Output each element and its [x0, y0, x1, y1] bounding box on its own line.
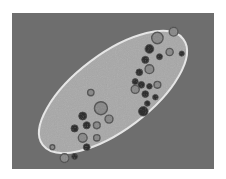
food-vacuole	[94, 102, 107, 115]
food-vacuole	[88, 89, 94, 95]
food-vacuole	[50, 145, 55, 150]
food-vacuole	[93, 122, 100, 129]
granule	[145, 101, 151, 107]
food-vacuole	[152, 32, 163, 43]
granule	[147, 84, 153, 90]
granule	[136, 69, 143, 76]
food-vacuole	[60, 154, 69, 163]
granule	[132, 79, 138, 85]
food-vacuole	[78, 133, 87, 142]
paramecium-micrograph	[12, 13, 214, 169]
granule	[145, 45, 154, 54]
granule	[153, 94, 159, 100]
food-vacuole	[94, 135, 100, 141]
granule	[71, 125, 78, 132]
granule	[179, 51, 184, 56]
food-vacuole	[169, 27, 178, 36]
food-vacuole	[105, 115, 113, 123]
food-vacuole	[131, 85, 139, 93]
granule	[142, 56, 149, 63]
granule	[83, 122, 90, 129]
granule	[142, 91, 149, 98]
food-vacuole	[145, 65, 154, 74]
food-vacuole	[166, 48, 173, 55]
granule	[139, 107, 149, 117]
food-vacuole	[154, 81, 161, 88]
granule	[83, 144, 90, 151]
micrograph-frame	[12, 13, 214, 169]
granule	[72, 154, 78, 160]
granule	[157, 54, 163, 60]
granule	[79, 112, 87, 120]
